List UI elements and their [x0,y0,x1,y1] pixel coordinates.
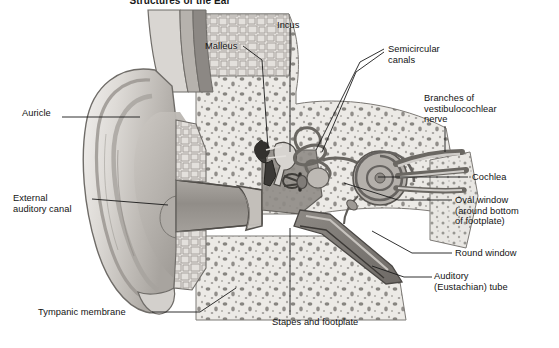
oval-window [297,176,307,189]
label-tympanic-membrane: Tympanic membrane [38,307,126,318]
label-vestibulocochlear-nerve: Branches of vestibulocochlear nerve [424,93,497,125]
label-malleus: Malleus [205,41,237,52]
label-semicircular-canals: Semicircular canals [388,44,440,65]
label-cochlea: Cochlea [472,172,506,183]
label-stapes-and-footplate: Stapes and footplate [272,317,358,328]
label-oval-window: Oval window (around bottom of footplate) [455,195,519,227]
label-auricle: Auricle [22,108,51,119]
label-eustachian-tube: Auditory (Eustachian) tube [434,271,508,292]
label-incus: Incus [277,20,299,31]
label-round-window: Round window [455,248,517,259]
label-external-auditory-canal: External auditory canal [13,193,72,214]
ear-anatomy-figure: Structures of the Ear [0,0,559,348]
